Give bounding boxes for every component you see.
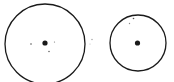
diagram-canvas xyxy=(0,0,174,82)
stray-mark xyxy=(89,43,90,44)
small-dot xyxy=(133,18,135,20)
small-dot xyxy=(48,51,50,53)
left-circle-group xyxy=(5,4,85,82)
left-circle-center-dot xyxy=(42,40,47,45)
right-circle-group xyxy=(110,15,166,71)
right-circle-center-dot xyxy=(135,40,140,45)
stray-mark xyxy=(91,39,92,40)
right-circle-small-dots xyxy=(129,18,135,24)
small-dot xyxy=(30,43,32,45)
small-dot xyxy=(129,23,130,24)
small-dot xyxy=(54,41,55,42)
stray-marks xyxy=(89,39,92,45)
